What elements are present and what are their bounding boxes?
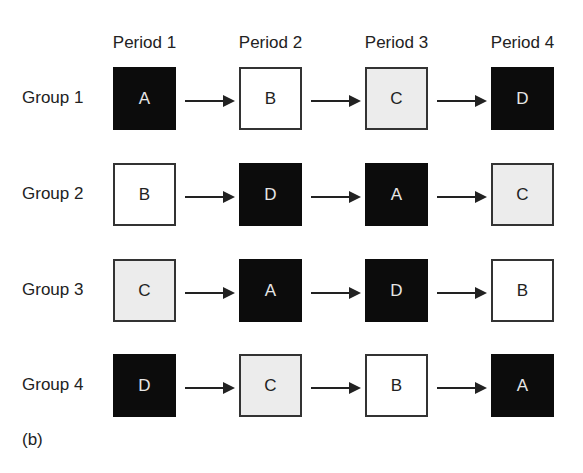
period-header: Period 4 xyxy=(473,33,573,53)
group-label: Group 4 xyxy=(22,375,83,395)
treatment-box: D xyxy=(365,259,428,322)
arrow-right-icon xyxy=(311,287,361,299)
period-header: Period 1 xyxy=(95,33,195,53)
treatment-box: A xyxy=(239,259,302,322)
group-label: Group 2 xyxy=(22,184,83,204)
arrow-right-icon xyxy=(311,382,361,394)
arrow-right-icon xyxy=(311,95,361,107)
arrow-right-icon xyxy=(311,191,361,203)
treatment-box: B xyxy=(365,354,428,417)
arrow-right-icon xyxy=(185,287,235,299)
treatment-box: B xyxy=(491,259,554,322)
arrow-right-icon xyxy=(437,95,487,107)
treatment-box: A xyxy=(365,163,428,226)
arrow-right-icon xyxy=(437,191,487,203)
treatment-box: D xyxy=(239,163,302,226)
period-header: Period 2 xyxy=(221,33,321,53)
group-label: Group 1 xyxy=(22,88,83,108)
panel-label: (b) xyxy=(22,430,43,450)
treatment-box: A xyxy=(491,354,554,417)
period-header: Period 3 xyxy=(347,33,447,53)
arrow-right-icon xyxy=(185,191,235,203)
treatment-box: C xyxy=(491,163,554,226)
arrow-right-icon xyxy=(437,287,487,299)
arrow-right-icon xyxy=(185,95,235,107)
treatment-box: C xyxy=(239,354,302,417)
treatment-box: A xyxy=(113,67,176,130)
arrow-right-icon xyxy=(437,382,487,394)
group-label: Group 3 xyxy=(22,280,83,300)
treatment-box: D xyxy=(113,354,176,417)
treatment-box: D xyxy=(491,67,554,130)
treatment-box: B xyxy=(239,67,302,130)
arrow-right-icon xyxy=(185,382,235,394)
treatment-box: C xyxy=(113,259,176,322)
treatment-box: B xyxy=(113,163,176,226)
treatment-box: C xyxy=(365,67,428,130)
